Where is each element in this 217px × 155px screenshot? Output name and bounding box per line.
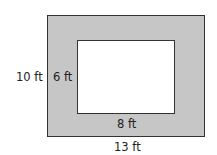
outer-height-label: 10 ft xyxy=(16,70,43,84)
inner-rectangle xyxy=(77,40,175,114)
outer-width-label: 13 ft xyxy=(114,140,141,154)
inner-height-label: 6 ft xyxy=(53,70,72,84)
inner-width-label: 8 ft xyxy=(117,117,136,131)
